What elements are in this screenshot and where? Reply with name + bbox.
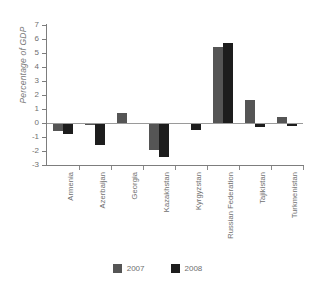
x-tick-mark xyxy=(303,166,304,170)
bar-tajikistan-2007 xyxy=(245,100,255,123)
x-category-label: Kyrgyzstan xyxy=(194,172,203,210)
y-tick-mark xyxy=(42,165,47,166)
x-tick-mark xyxy=(175,166,176,170)
legend-item-2008[interactable]: 2008 xyxy=(171,264,203,273)
chart-legend: 20072008 xyxy=(0,264,315,273)
y-tick-label: -2 xyxy=(13,147,39,155)
y-tick-label: -1 xyxy=(13,133,39,141)
y-tick-label: 6 xyxy=(13,35,39,43)
x-tick-mark xyxy=(271,166,272,170)
x-tick-mark xyxy=(239,166,240,170)
y-tick-label: 1 xyxy=(13,105,39,113)
x-category-label: Azerbaijan xyxy=(98,172,107,208)
bar-chart: Percentage of GDP 76543210-1-2-3 Armenia… xyxy=(0,0,315,294)
x-tick-mark xyxy=(143,166,144,170)
bar-armenia-2008 xyxy=(63,123,73,134)
bar-kazakhstan-2008 xyxy=(159,123,169,157)
x-tick-mark xyxy=(111,166,112,170)
bar-russian-federation-2007 xyxy=(213,47,223,123)
bar-armenia-2007 xyxy=(53,123,63,131)
y-tick-label: 3 xyxy=(13,77,39,85)
plot-area xyxy=(47,25,303,165)
y-tick-label: 4 xyxy=(13,63,39,71)
bar-azerbaijan-2008 xyxy=(95,123,105,145)
bar-kyrgyzstan-2008 xyxy=(191,123,201,130)
y-tick-label: -3 xyxy=(13,161,39,169)
legend-label: 2008 xyxy=(185,264,203,273)
y-tick-label: 0 xyxy=(13,119,39,127)
bar-kazakhstan-2007 xyxy=(149,123,159,150)
legend-item-2007[interactable]: 2007 xyxy=(113,264,145,273)
y-tick-label: 7 xyxy=(13,21,39,29)
bar-russian-federation-2008 xyxy=(223,43,233,123)
legend-swatch-icon xyxy=(171,264,180,273)
zero-baseline xyxy=(47,123,303,124)
x-category-label: Tajikistan xyxy=(258,172,267,204)
x-tick-mark xyxy=(79,166,80,170)
legend-label: 2007 xyxy=(127,264,145,273)
x-category-label: Turkmenistan xyxy=(290,172,299,218)
x-category-label: Georgia xyxy=(130,172,139,199)
x-tick-mark xyxy=(207,166,208,170)
y-tick-label: 5 xyxy=(13,49,39,57)
bar-georgia-2007 xyxy=(117,113,127,124)
x-category-label: Kazakhstan xyxy=(162,172,171,212)
legend-swatch-icon xyxy=(113,264,122,273)
x-category-label: Russian Federation xyxy=(226,172,235,239)
x-category-label: Armenia xyxy=(66,172,75,201)
y-tick-label: 2 xyxy=(13,91,39,99)
